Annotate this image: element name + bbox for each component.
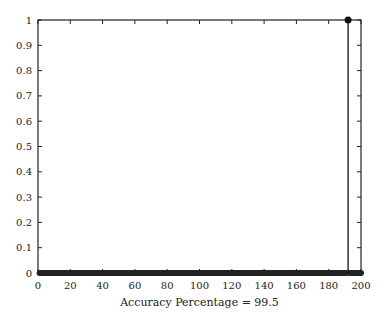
y-tick-label: 0.9 — [16, 40, 32, 51]
y-tick-label: 0.5 — [16, 141, 32, 152]
stem-chart: 00.10.20.30.40.50.60.70.80.9102040608010… — [0, 0, 384, 325]
x-tick-label: 140 — [255, 280, 274, 291]
x-tick-label: 20 — [64, 280, 77, 291]
y-tick-label: 0.7 — [16, 90, 32, 101]
x-tick-label: 200 — [351, 280, 370, 291]
x-tick-label: 80 — [161, 280, 174, 291]
x-tick-label: 40 — [96, 280, 109, 291]
x-tick-label: 60 — [129, 280, 142, 291]
y-tick-label: 0.3 — [16, 192, 32, 203]
stem-marker — [345, 17, 352, 24]
y-tick-label: 0.1 — [16, 242, 32, 253]
x-tick-label: 0 — [35, 280, 41, 291]
x-tick-label: 100 — [190, 280, 209, 291]
y-tick-label: 0.2 — [16, 217, 32, 228]
x-tick-label: 120 — [222, 280, 241, 291]
plot-frame — [38, 20, 361, 273]
y-tick-label: 0.8 — [16, 65, 32, 76]
zero-marker — [358, 270, 364, 276]
y-tick-label: 1 — [26, 15, 32, 26]
y-tick-label: 0 — [26, 268, 32, 279]
x-tick-label: 180 — [319, 280, 338, 291]
y-tick-label: 0.4 — [16, 166, 32, 177]
x-tick-label: 160 — [287, 280, 306, 291]
y-tick-label: 0.6 — [16, 116, 32, 127]
x-axis-label: Accuracy Percentage = 99.5 — [119, 296, 279, 309]
